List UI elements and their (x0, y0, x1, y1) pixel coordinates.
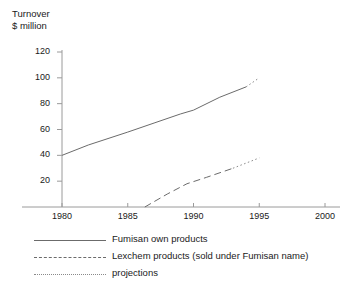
x-axis-ticks (62, 203, 325, 207)
x-axis-tick-label: 1980 (47, 211, 77, 221)
series-line (246, 78, 259, 87)
y-axis-title-line2: $ million (12, 20, 47, 31)
series-line (145, 168, 233, 207)
chart-axes (22, 50, 340, 207)
y-axis-ticks (57, 52, 62, 181)
legend-label: Fumisan own products (112, 233, 208, 244)
legend-item: projections (0, 266, 357, 283)
legend-swatch-dashed (34, 257, 106, 258)
legend-item: Fumisan own products (0, 232, 357, 249)
legend-swatch-solid (34, 240, 106, 241)
y-axis-tick-label: 20 (24, 175, 50, 185)
chart-series-group (62, 78, 259, 207)
y-axis-tick-label: 80 (24, 98, 50, 108)
y-axis-title-line1: Turnover (12, 8, 50, 19)
y-axis-tick-label: 120 (24, 46, 50, 56)
y-axis-title: Turnover$ million (12, 8, 50, 31)
x-axis-tick-label: 1995 (244, 211, 274, 221)
chart-figure: Turnover$ million 20406080100120 1980198… (0, 0, 357, 290)
series-line (233, 158, 259, 168)
y-axis-tick-label: 100 (24, 72, 50, 82)
series-line (62, 87, 246, 155)
x-axis-tick-label: 1985 (113, 211, 143, 221)
y-axis-tick-label: 40 (24, 149, 50, 159)
legend-label: Lexchem products (sold under Fumisan nam… (112, 250, 308, 261)
legend-label: projections (112, 267, 158, 278)
legend-swatch-dotted (34, 274, 106, 275)
y-axis-tick-label: 60 (24, 124, 50, 134)
legend-item: Lexchem products (sold under Fumisan nam… (0, 249, 357, 266)
x-axis-tick-label: 1990 (179, 211, 209, 221)
x-axis-tick-label: 2000 (310, 211, 340, 221)
chart-legend: Fumisan own productsLexchem products (so… (0, 232, 357, 283)
